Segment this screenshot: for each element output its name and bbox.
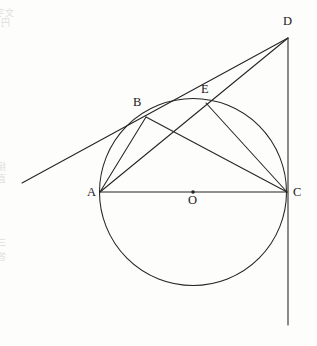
point-label-c: C xyxy=(293,186,301,199)
geometry-diagram-svg xyxy=(0,0,317,346)
segment-bc xyxy=(146,117,287,192)
geometry-figure-root: 文字の試験問題と解答円の接線と弦の定理についての問題接線 BD と CD は等し… xyxy=(0,0,317,346)
tangent-line-at-b xyxy=(22,38,288,183)
point-label-o: O xyxy=(188,194,197,207)
point-label-d: D xyxy=(283,15,292,28)
segment-ad-through-e xyxy=(100,38,288,192)
point-label-a: A xyxy=(87,186,96,199)
segments-group xyxy=(22,38,288,325)
point-label-e: E xyxy=(201,83,209,96)
point-label-b: B xyxy=(133,96,141,109)
